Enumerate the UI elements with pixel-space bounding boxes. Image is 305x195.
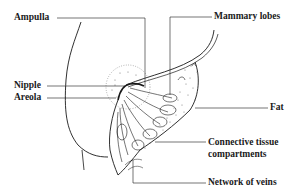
label-compartments: compartments — [208, 149, 267, 160]
label-connective-tissue: Connective tissue — [208, 137, 278, 148]
label-nipple: Nipple — [14, 80, 41, 91]
lower-torso-line — [82, 150, 84, 170]
illustration — [0, 0, 305, 195]
fat-stipple — [145, 66, 198, 149]
label-ampulla: Ampulla — [14, 12, 49, 23]
label-areola: Areola — [14, 92, 41, 103]
ampulla-leader — [57, 18, 145, 88]
label-network-of-veins: Network of veins — [208, 177, 277, 188]
torso-outline — [65, 22, 108, 157]
label-fat: Fat — [270, 102, 284, 113]
breast-anatomy-diagram: Ampulla Mammary lobes Nipple Areola Fat … — [0, 0, 305, 195]
label-mammary-lobes: Mammary lobes — [214, 11, 280, 22]
mammary-lobes-leader — [170, 17, 212, 95]
mammary-lobes — [117, 64, 196, 162]
veins-leader — [133, 160, 206, 183]
